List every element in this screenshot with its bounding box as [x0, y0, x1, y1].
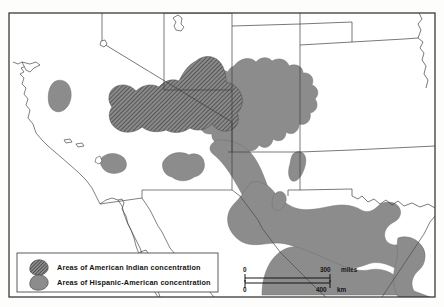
legend-label-american-indian: Areas of American Indian concentration [57, 263, 201, 272]
legend-label-hispanic-american: Areas of Hispanic-American concentration [57, 278, 211, 287]
scale-label-km-unit: km [337, 286, 347, 293]
scale-label-miles-end: 300 [320, 266, 331, 273]
map-canvas: Areas of American Indian concentration A… [0, 0, 444, 307]
scale-label-km-start: 0 [243, 286, 247, 293]
scale-label-miles-unit: miles [341, 266, 358, 273]
scale-label-miles-start: 0 [243, 266, 247, 273]
map-figure: Areas of American Indian concentration A… [0, 0, 444, 307]
legend-swatch-american-indian [30, 260, 48, 275]
scale-label-km-end: 400 [316, 286, 327, 293]
legend-swatch-hispanic-american [30, 275, 48, 290]
map-legend: Areas of American Indian concentration A… [17, 253, 218, 292]
